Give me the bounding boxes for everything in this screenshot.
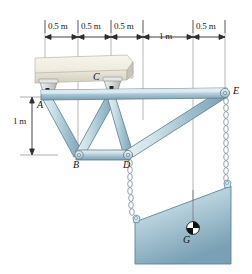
suspended-block (133, 180, 231, 264)
dim-label-4: 0.5 m (196, 21, 216, 31)
node-label-E: E (233, 85, 239, 96)
dim-label-vertical-1m: 1 m (13, 116, 26, 126)
node-label-C: C (93, 71, 100, 82)
member-C-D (107, 96, 133, 156)
node-label-D: D (123, 159, 130, 170)
dim-label-3: 1 m (159, 31, 172, 41)
dim-label-2: 0.5 m (114, 21, 134, 31)
truss-diagram (0, 0, 252, 274)
vertical-dimension-line (30, 97, 35, 155)
member-D-E (125, 90, 227, 157)
horizontal-dimension-line (45, 35, 225, 40)
member-B-D (76, 150, 130, 160)
node-label-A: A (37, 99, 43, 110)
member-A-E-top-chord (41, 88, 227, 100)
member-A-B (41, 94, 83, 157)
node-label-G: G (183, 234, 190, 245)
dim-label-1: 0.5 m (81, 21, 101, 31)
dim-label-0: 0.5 m (48, 21, 68, 31)
node-label-B: B (73, 159, 79, 170)
chain-E (224, 98, 229, 182)
figure-root: 0.5 m 0.5 m 0.5 m 1 m 0.5 m 1 m A B C D … (0, 0, 252, 274)
